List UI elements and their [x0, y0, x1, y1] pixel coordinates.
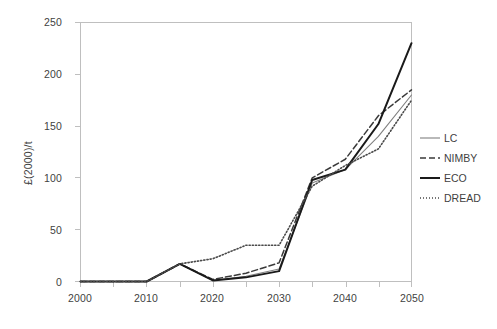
legend-label-eco: ECO: [444, 173, 467, 184]
data-series-layer: [81, 43, 412, 281]
legend-item-lc: LC: [419, 128, 493, 148]
legend-label-nimby: NIMBY: [444, 153, 477, 164]
legend-item-eco: ECO: [419, 168, 493, 188]
legend-label-dread: DREAD: [444, 193, 481, 204]
line-chart: £(2000)/t 250 200 150 100 50 0 2000 2010…: [0, 0, 497, 329]
axis-frame: [80, 22, 412, 282]
y-axis-ticks: [75, 23, 80, 282]
series-line-dread: [81, 100, 412, 281]
legend-item-nimby: NIMBY: [419, 148, 493, 168]
legend: LC NIMBY ECO DREAD: [419, 128, 493, 208]
legend-item-dread: DREAD: [419, 188, 493, 208]
series-line-nimby: [81, 90, 412, 282]
series-line-lc: [81, 95, 412, 281]
legend-label-lc: LC: [444, 133, 457, 144]
